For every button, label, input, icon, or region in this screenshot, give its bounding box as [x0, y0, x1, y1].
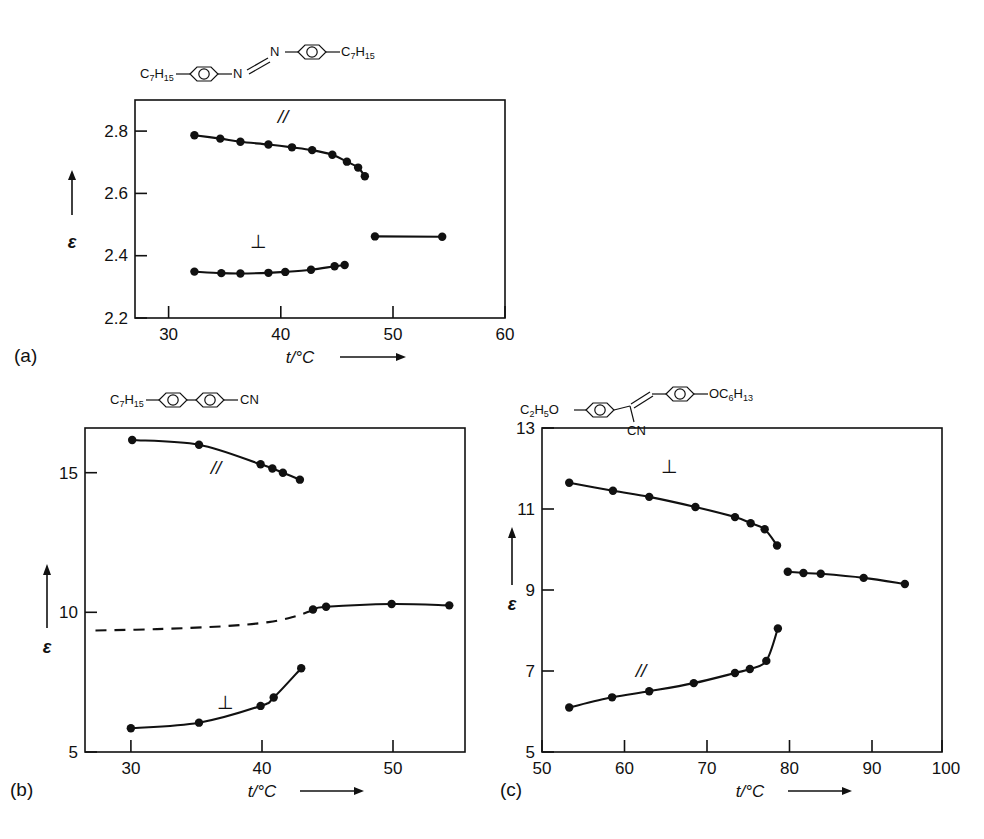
x-tick-c-5: 100	[932, 759, 960, 778]
data-point	[354, 163, 362, 171]
data-point	[217, 269, 225, 277]
x-axis-title-c: t/°C	[736, 782, 765, 801]
data-point	[256, 702, 264, 710]
panel-b: C7H15 CN 15	[0, 380, 500, 839]
x-tick-b-0: 30	[121, 759, 140, 778]
epsilon-label-b: ε	[43, 637, 52, 657]
data-point	[645, 687, 653, 695]
data-point	[387, 600, 395, 608]
branch-label-a-parallel: //	[276, 106, 290, 127]
panel-a-caption: (a)	[14, 345, 37, 366]
plot-frame-a	[135, 100, 505, 318]
data-point	[297, 664, 305, 672]
y-tick-c-0: 13	[516, 419, 535, 438]
x-axis-label-a: t/°C	[286, 348, 406, 367]
branch-label-a-perpendicular: ⊥	[250, 231, 267, 252]
y-tick-b-1: 10	[59, 603, 78, 622]
epsilon-label-c: ε	[508, 594, 517, 614]
panel-c-caption: (c)	[500, 779, 522, 800]
benzene-ring-left	[190, 67, 218, 81]
structure-c-cyano-group: CN	[627, 423, 646, 438]
benzene-ring-b-right	[196, 393, 224, 407]
data-point	[236, 138, 244, 146]
x-axis-c: 50 60 70 80 90 100	[533, 740, 961, 778]
data-layer-a	[190, 131, 446, 278]
series-curve-b-mean-dashed	[95, 611, 310, 631]
data-point	[264, 269, 272, 277]
structure-a: C7H15 N N C7H15	[140, 44, 375, 83]
structure-b-right-group: CN	[240, 392, 259, 407]
y-axis-label-b: ε	[43, 564, 52, 657]
benzene-ring-c-right	[666, 387, 694, 401]
x-tick-b-1: 40	[253, 759, 272, 778]
x-tick-c-2: 70	[698, 759, 717, 778]
data-point	[746, 665, 754, 673]
x-axis-title-b: t/°C	[248, 782, 277, 801]
series-curve-c-x	[569, 483, 777, 546]
data-point	[445, 601, 453, 609]
y-axis-b: 15 10 5	[59, 464, 97, 762]
y-tick-c-2: 9	[526, 581, 535, 600]
branch-label-c-parallel: //	[634, 660, 648, 681]
branch-label-b-perpendicular: ⊥	[217, 692, 234, 713]
data-point	[859, 574, 867, 582]
data-point	[817, 570, 825, 578]
data-point	[256, 460, 264, 468]
data-point	[281, 268, 289, 276]
data-point	[746, 519, 754, 527]
y-tick-c-3: 7	[526, 662, 535, 681]
structure-a-nitrogen-right: N	[233, 66, 242, 81]
x-axis-label-c: t/°C	[736, 782, 852, 801]
y-axis-label-c: ε	[508, 527, 517, 614]
data-point	[691, 503, 699, 511]
benzene-ring-b-left	[159, 393, 187, 407]
y-tick-a-0: 2.8	[104, 122, 128, 141]
x-tick-a-1: 40	[271, 325, 290, 344]
data-point	[784, 568, 792, 576]
data-point	[799, 569, 807, 577]
plot-frame-b	[85, 428, 465, 752]
data-point	[308, 146, 316, 154]
data-point	[296, 475, 304, 483]
data-point	[288, 143, 296, 151]
x-tick-b-2: 50	[384, 759, 403, 778]
data-point	[328, 151, 336, 159]
data-point	[343, 157, 351, 165]
panel-a: C7H15 N N C7H15	[0, 0, 560, 375]
panel-c: C2H5O CN OC6H13	[490, 380, 984, 839]
data-point	[760, 525, 768, 533]
structure-a-right-group: C7H15	[341, 44, 375, 61]
data-layer-c	[565, 478, 909, 711]
x-tick-a-2: 50	[384, 325, 403, 344]
data-point	[307, 266, 315, 274]
structure-b: C7H15 CN	[110, 392, 259, 409]
data-point	[340, 261, 348, 269]
data-point	[608, 693, 616, 701]
data-point	[762, 657, 770, 665]
x-tick-c-4: 90	[863, 759, 882, 778]
x-tick-a-0: 30	[159, 325, 178, 344]
plot-frame-c	[542, 428, 942, 752]
data-point	[195, 441, 203, 449]
data-point	[901, 580, 909, 588]
x-tick-a-3: 60	[496, 325, 515, 344]
data-point	[264, 140, 272, 148]
y-axis-c: 13 11 9 7 5	[516, 419, 554, 762]
x-tick-c-1: 60	[615, 759, 634, 778]
data-point	[236, 269, 244, 277]
x-axis-b: 30 40 50	[121, 740, 402, 778]
x-axis-title-a: t/°C	[286, 348, 315, 367]
structure-c-left-group: C2H5O	[520, 402, 559, 419]
structure-b-left-group: C7H15	[110, 392, 144, 409]
data-point	[565, 478, 573, 486]
data-point	[190, 267, 198, 275]
series-curve-b-isotropic	[313, 604, 449, 610]
data-point	[438, 233, 446, 241]
y-tick-a-3: 2.2	[104, 309, 128, 328]
y-tick-a-1: 2.6	[104, 184, 128, 203]
data-point	[645, 493, 653, 501]
structure-c: C2H5O CN OC6H13	[520, 386, 753, 438]
y-tick-b-0: 15	[59, 464, 78, 483]
branch-label-c-perpendicular: ⊥	[661, 456, 678, 477]
branch-label-b-parallel: //	[209, 457, 223, 478]
